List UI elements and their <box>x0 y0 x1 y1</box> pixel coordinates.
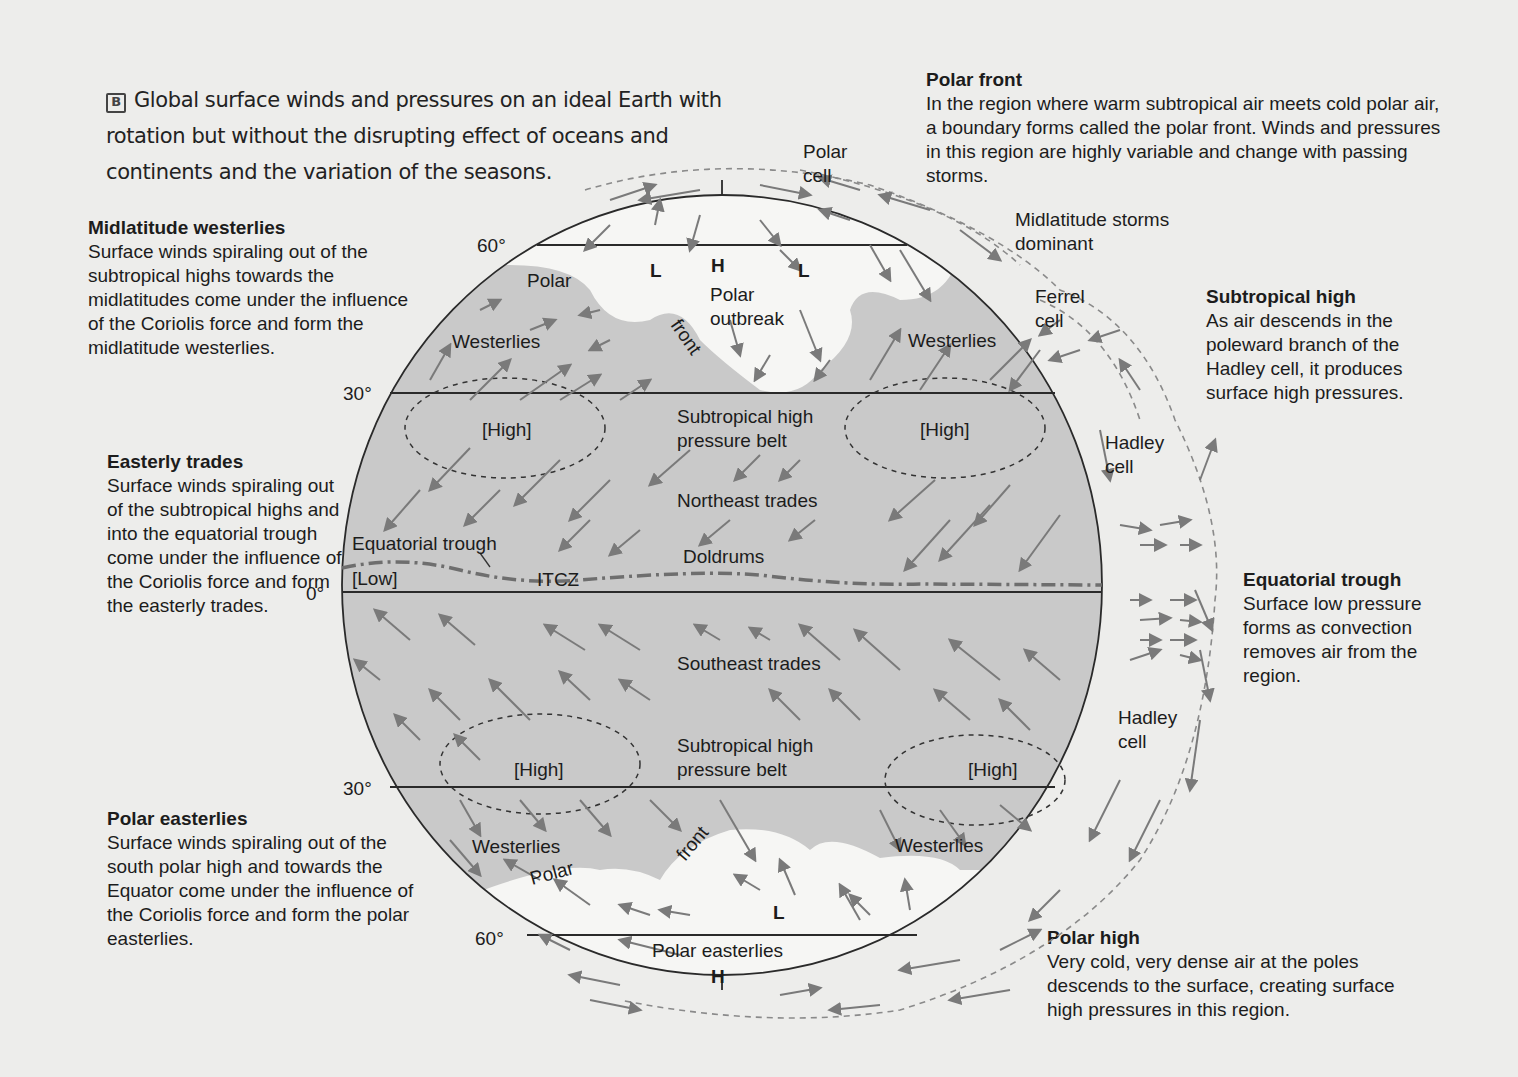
label-northeast-trades: Northeast trades <box>677 490 817 511</box>
label-westerlies-ne: Westerlies <box>908 330 996 351</box>
label-high-sw: [High] <box>514 759 564 780</box>
label-hadley-cell-s-2: cell <box>1118 731 1147 752</box>
label-storms-dominant: dominant <box>1015 233 1094 254</box>
globe-diagram: 60° 30° 0° 30° 60° Polar cell Midlatitud… <box>0 0 1518 1077</box>
label-high-north-pole: H <box>711 255 725 276</box>
label-equatorial-trough: Equatorial trough <box>352 533 497 554</box>
label-subtropical-belt-n: Subtropical high <box>677 406 813 427</box>
label-polar-north: Polar <box>527 270 572 291</box>
label-high-nw: [High] <box>482 419 532 440</box>
label-westerlies-nw: Westerlies <box>452 331 540 352</box>
label-subtropical-belt-n-2: pressure belt <box>677 430 788 451</box>
label-westerlies-se: Westerlies <box>895 835 983 856</box>
label-doldrums: Doldrums <box>683 546 764 567</box>
lat-label-equator: 0° <box>306 583 324 604</box>
label-polar-cell: Polar <box>803 141 848 162</box>
lat-label-s60: 60° <box>475 928 504 949</box>
label-hadley-cell-n: Hadley <box>1105 432 1165 453</box>
label-high-ne: [High] <box>920 419 970 440</box>
label-midlatitude-storms: Midlatitude storms <box>1015 209 1169 230</box>
label-subtropical-belt-s-2: pressure belt <box>677 759 788 780</box>
label-low-south: L <box>773 902 785 923</box>
label-itcz: ITCZ <box>537 569 580 590</box>
label-hadley-cell-s: Hadley <box>1118 707 1178 728</box>
label-low-north-2: L <box>798 260 810 281</box>
lat-label-s30: 30° <box>343 778 372 799</box>
label-polar-easterlies: Polar easterlies <box>652 940 783 961</box>
lat-label-n60: 60° <box>477 235 506 256</box>
label-polar-cell-2: cell <box>803 165 832 186</box>
label-southeast-trades: Southeast trades <box>677 653 821 674</box>
label-high-se: [High] <box>968 759 1018 780</box>
label-low: [Low] <box>352 568 397 589</box>
lat-label-n30: 30° <box>343 383 372 404</box>
label-low-north-1: L <box>650 260 662 281</box>
label-polar-outbreak-2: outbreak <box>710 308 784 329</box>
label-ferrel-cell-2: cell <box>1035 310 1064 331</box>
label-ferrel-cell: Ferrel <box>1035 286 1085 307</box>
label-hadley-cell-n-2: cell <box>1105 456 1134 477</box>
label-polar-outbreak: Polar <box>710 284 755 305</box>
label-westerlies-sw: Westerlies <box>472 836 560 857</box>
label-high-south-pole: H <box>711 966 725 987</box>
label-subtropical-belt-s: Subtropical high <box>677 735 813 756</box>
